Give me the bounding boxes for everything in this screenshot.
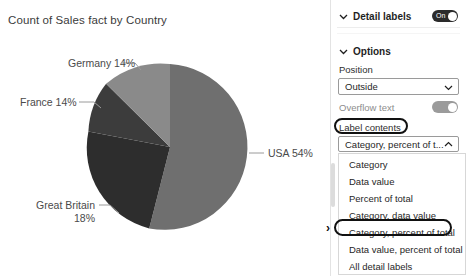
chevron-down-icon-position[interactable] [444, 78, 453, 96]
options-title: Options [353, 46, 391, 57]
detail-labels-toggle[interactable]: On [432, 10, 458, 22]
dropdown-scrollbar[interactable] [331, 163, 335, 207]
label-contents-label: Label contents [331, 122, 466, 133]
dropdown-option-data-value-percent-of-total[interactable]: Data value, percent of total [339, 241, 465, 258]
pie-label-usa: USA 54% [268, 147, 313, 160]
pie-svg [0, 0, 330, 276]
position-dropdown[interactable]: Outside [338, 78, 459, 95]
pie-label-germany: Germany 14% [68, 57, 135, 70]
pane-divider-1 [337, 27, 460, 28]
overflow-text-toggle[interactable] [432, 101, 458, 113]
detail-labels-title: Detail labels [353, 11, 411, 22]
position-dropdown-value: Outside [345, 81, 378, 92]
pane-divider-2 [337, 33, 460, 34]
dropdown-option-data-value[interactable]: Data value [339, 173, 465, 190]
detail-labels-section-header[interactable]: Detail labels On [331, 6, 466, 26]
chevron-down-icon[interactable] [339, 12, 348, 21]
chart-area: Count of Sales fact by Country Germany 1… [0, 0, 330, 276]
toggle-knob [448, 12, 457, 21]
pie-chart[interactable]: Germany 14% France 14% Great Britain 18%… [0, 0, 330, 276]
options-section-header[interactable]: Options [331, 41, 466, 61]
overflow-text-row[interactable]: Overflow text [331, 100, 466, 114]
dropdown-option-category-percent-of-total[interactable]: Category, percent of total [339, 224, 465, 241]
position-label: Position [331, 64, 466, 75]
chevron-up-icon-label-contents[interactable] [444, 135, 453, 153]
pie-label-france: France 14% [20, 96, 77, 109]
pie-label-great-britain: Great Britain 18% [23, 199, 95, 224]
toggle-knob-overflow [448, 103, 457, 112]
chevron-down-icon-options[interactable] [339, 47, 348, 56]
overflow-text-label: Overflow text [339, 102, 394, 113]
detail-labels-toggle-state: On [436, 10, 445, 22]
format-pane: Detail labels On Options Position Outsid… [330, 0, 465, 276]
dropdown-option-category-data-value[interactable]: Category, data value [339, 207, 465, 224]
annotation-pointer-icon: › [326, 222, 330, 234]
label-contents-dropdown-list[interactable]: Category Data value Percent of total Cat… [338, 153, 466, 275]
label-contents-dropdown-value: Category, percent of t... [345, 139, 444, 150]
dropdown-option-percent-of-total[interactable]: Percent of total [339, 190, 465, 207]
dropdown-option-category[interactable]: Category [339, 156, 465, 173]
dropdown-option-all-detail-labels[interactable]: All detail labels [339, 258, 465, 275]
label-contents-dropdown[interactable]: Category, percent of t... [338, 136, 459, 152]
